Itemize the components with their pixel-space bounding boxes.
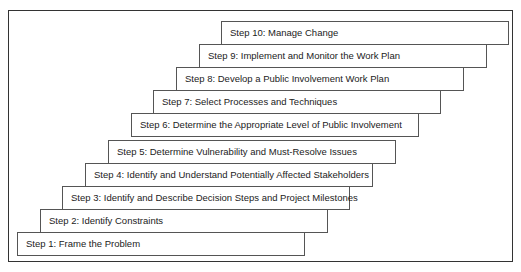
step-4: Step 4: Identify and Understand Potentia… [85, 163, 373, 187]
step-1: Step 1: Frame the Problem [17, 232, 305, 256]
step-7: Step 7: Select Processes and Techniques [153, 90, 441, 114]
step-3: Step 3: Identify and Describe Decision S… [62, 186, 350, 210]
step-10: Step 10: Manage Change [221, 21, 509, 45]
step-8: Step 8: Develop a Public Involvement Wor… [176, 67, 464, 91]
step-5: Step 5: Determine Vulnerability and Must… [108, 140, 396, 164]
step-2: Step 2: Identify Constraints [40, 209, 328, 233]
step-6: Step 6: Determine the Appropriate Level … [131, 113, 419, 137]
step-9: Step 9: Implement and Monitor the Work P… [199, 44, 487, 68]
